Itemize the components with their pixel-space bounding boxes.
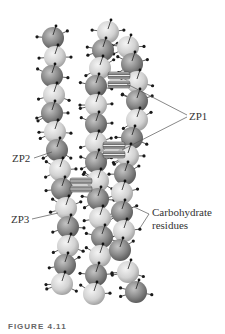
carbohydrate-residue-icon — [51, 198, 54, 201]
label-zp2: ZP2 — [12, 152, 30, 164]
carbohydrate-residue-icon — [111, 273, 114, 276]
carbohydrate-residue-icon — [45, 160, 48, 163]
carbohydrate-residue-icon — [79, 284, 82, 287]
carbohydrate-residue-icon — [142, 275, 145, 278]
carbohydrate-residue-icon — [135, 204, 138, 207]
carbohydrate-residue-icon — [79, 200, 82, 203]
carbohydrate-residue-icon — [85, 246, 88, 249]
carbohydrate-residue-icon — [107, 173, 110, 176]
carbohydrate-residue-icon — [80, 167, 83, 170]
zona-pellucida-diagram — [0, 0, 225, 334]
light-protein-sphere — [89, 207, 111, 229]
carbohydrate-residue-icon — [145, 143, 148, 146]
carbohydrate-residue-icon — [137, 164, 140, 167]
carbohydrate-residue-icon — [44, 175, 47, 178]
light-protein-sphere — [111, 182, 133, 204]
carbohydrate-residue-icon — [142, 45, 145, 48]
light-protein-sphere — [85, 94, 107, 116]
dark-protein-sphere — [111, 201, 133, 223]
carbohydrate-residue-icon — [142, 154, 145, 157]
carbohydrate-residue-icon — [83, 219, 86, 222]
carbohydrate-residue-icon — [82, 173, 85, 176]
label-residues: residues — [152, 219, 188, 231]
carbohydrate-residue-icon — [37, 131, 40, 134]
carbohydrate-residue-icon — [36, 119, 39, 122]
carbohydrate-residue-icon — [79, 81, 82, 84]
carbohydrate-residue-icon — [44, 283, 47, 286]
carbohydrate-residue-icon — [36, 67, 39, 70]
label-zp1: ZP1 — [189, 110, 207, 122]
dark-protein-sphere — [42, 27, 64, 49]
carbohydrate-residue-icon — [83, 206, 86, 209]
carbohydrate-residue-icon — [69, 132, 72, 135]
carbohydrate-residue-icon — [78, 272, 81, 275]
carbohydrate-residue-icon — [116, 55, 119, 58]
carbohydrate-residue-icon — [110, 102, 113, 105]
carbohydrate-residue-icon — [45, 287, 48, 290]
carbohydrate-residue-icon — [110, 136, 113, 139]
carbohydrate-residue-icon — [138, 228, 141, 231]
carbohydrate-residue-icon — [110, 121, 113, 124]
carbohydrate-residue-icon — [48, 266, 51, 269]
carbohydrate-residue-icon — [150, 293, 153, 296]
carbohydrate-residue-icon — [69, 156, 72, 159]
carbohydrate-residue-icon — [35, 116, 38, 119]
carbohydrate-residue-icon — [119, 295, 122, 298]
dark-protein-sphere — [85, 113, 107, 135]
carbohydrate-residue-icon — [113, 163, 116, 166]
carbohydrate-residue-icon — [51, 230, 54, 233]
carbohydrate-residue-icon — [82, 226, 85, 229]
carbohydrate-residue-icon — [37, 56, 40, 59]
carbohydrate-residue-icon — [80, 116, 83, 119]
carbohydrate-residue-icon — [149, 111, 152, 114]
carbohydrate-residue-icon — [35, 35, 38, 38]
carbohydrate-residue-icon — [84, 74, 87, 77]
carbohydrate-residue-icon — [122, 29, 125, 32]
label-zp3: ZP3 — [11, 213, 29, 225]
carbohydrate-residue-icon — [119, 286, 122, 289]
carbohydrate-residue-icon — [67, 99, 70, 102]
light-protein-sphere — [49, 159, 71, 181]
carbohydrate-residue-icon — [136, 188, 139, 191]
carbohydrate-residue-icon — [82, 250, 85, 253]
dark-protein-sphere — [46, 139, 68, 161]
carbohydrate-residue-icon — [79, 146, 82, 149]
carbohydrate-residue-icon — [86, 45, 89, 48]
carbohydrate-residue-icon — [112, 58, 115, 61]
carbohydrate-residue-icon — [52, 251, 55, 254]
carbohydrate-residue-icon — [85, 232, 88, 235]
carbohydrate-residue-icon — [49, 211, 52, 214]
carbohydrate-residue-icon — [81, 195, 84, 198]
dark-protein-sphere — [85, 75, 107, 97]
carbohydrate-residue-icon — [79, 107, 82, 110]
carbohydrate-residue-icon — [66, 111, 69, 114]
carbohydrate-residue-icon — [79, 155, 82, 158]
zp3-leader — [32, 213, 58, 219]
label-carbohydrate: Carbohydrate — [152, 206, 212, 218]
carbohydrate-residue-icon — [74, 167, 77, 170]
light-protein-sphere — [51, 273, 73, 295]
light-protein-sphere — [117, 261, 139, 283]
dark-protein-sphere — [109, 239, 131, 261]
carbohydrate-residue-icon — [66, 76, 69, 79]
dark-protein-sphere — [125, 281, 147, 303]
carbohydrate-residue-icon — [151, 84, 154, 87]
figure-caption: FIGURE 4.11 — [8, 322, 67, 331]
dark-protein-sphere — [41, 102, 63, 124]
carbohydrate-residue-icon — [37, 97, 40, 100]
dark-protein-sphere — [41, 65, 63, 87]
light-protein-sphere — [55, 197, 77, 219]
carbohydrate-residue-icon — [44, 189, 47, 192]
protein-filaments — [41, 19, 148, 305]
carbohydrate-residue-icon — [69, 56, 72, 59]
carbohydrate-residue-icon — [39, 137, 42, 140]
carbohydrate-residue-icon — [122, 127, 125, 130]
carbohydrate-residue-icon — [91, 28, 94, 31]
carbohydrate-residue-icon — [75, 290, 78, 293]
dark-protein-sphere — [57, 216, 79, 238]
carbohydrate-bracket — [134, 207, 149, 228]
carbohydrate-residue-icon — [132, 240, 135, 243]
light-protein-sphere — [83, 283, 105, 305]
carbohydrate-residue-icon — [42, 157, 45, 160]
carbohydrate-residue-icon — [121, 93, 124, 96]
